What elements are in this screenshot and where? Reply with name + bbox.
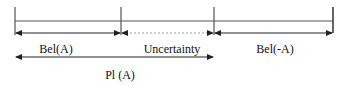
bel-not-a-label: Bel(-A) bbox=[256, 43, 293, 55]
bel-a-label: Bel(A) bbox=[39, 43, 72, 55]
pl-a-label: Pl (A) bbox=[105, 69, 135, 81]
uncertainty-label: Uncertainty bbox=[144, 43, 201, 55]
